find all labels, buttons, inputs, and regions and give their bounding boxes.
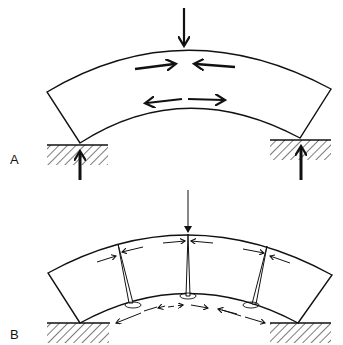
panel-label-b: B — [10, 327, 19, 342]
panel-a — [47, 8, 331, 180]
support-right-b — [270, 323, 331, 343]
crack-left-b — [118, 244, 141, 308]
panel-label-a: A — [10, 152, 19, 167]
support-left-a — [47, 145, 108, 165]
arch-stress-diagram — [0, 0, 343, 345]
compression-arrow-right-a — [196, 64, 235, 67]
support-left-b — [47, 323, 110, 343]
tension-arrow-right-a — [188, 99, 223, 100]
compression-arrow-b3 — [163, 241, 185, 243]
beam-b — [48, 235, 332, 323]
panel-b — [47, 190, 332, 343]
crack-right-b — [243, 246, 267, 308]
crack-center-b — [180, 234, 196, 299]
compression-arrow-b1 — [97, 256, 116, 262]
compression-arrow-left-a — [135, 64, 174, 69]
compression-arrow-b4 — [191, 241, 213, 243]
compression-arrow-b5 — [243, 249, 264, 253]
compression-arrow-b2 — [122, 247, 143, 252]
compression-arrow-b6 — [270, 256, 290, 263]
tension-arrow-left-a — [147, 99, 182, 103]
beam-a — [47, 50, 331, 143]
